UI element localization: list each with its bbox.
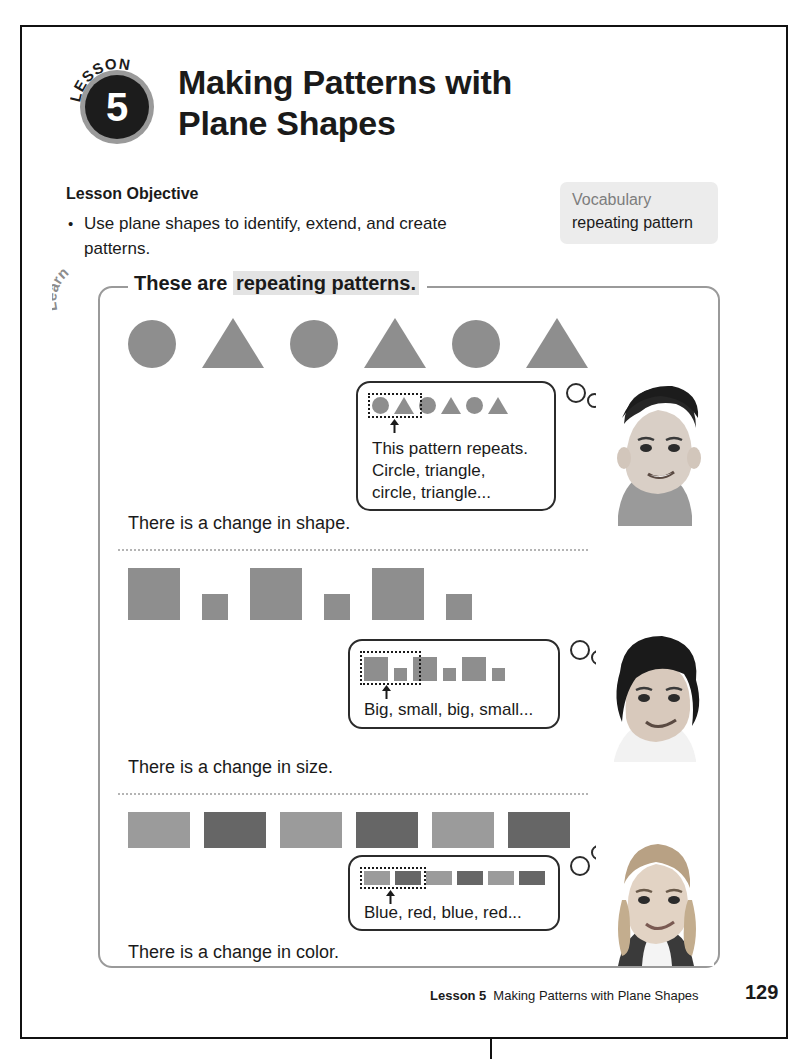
- vocabulary-box: Vocabulary repeating pattern: [560, 182, 718, 244]
- bubble-line: This pattern repeats.: [372, 438, 548, 460]
- mini-rect-blue: [488, 871, 514, 885]
- page-number: 129: [745, 981, 778, 1004]
- pattern-shape-circle: [452, 320, 500, 368]
- bubble-line: Big, small, big, small...: [364, 699, 554, 721]
- mini-square-small: [443, 668, 456, 681]
- bubble-text-shape: This pattern repeats. Circle, triangle, …: [372, 438, 548, 504]
- pattern-square-big: [372, 568, 424, 620]
- thought-dot-large: [566, 383, 586, 403]
- size-pattern-sequence: [128, 566, 472, 620]
- unit-highlight-box: [360, 867, 426, 889]
- pattern-shape-triangle: [526, 318, 588, 368]
- caption-color: There is a change in color.: [128, 942, 339, 963]
- pattern-rect-blue: [432, 812, 494, 848]
- pattern-shape-triangle: [364, 318, 426, 368]
- pattern-square-small: [324, 594, 350, 620]
- pattern-square-small: [446, 594, 472, 620]
- objective-item: • Use plane shapes to identify, extend, …: [68, 212, 488, 261]
- footer-title: Making Patterns with Plane Shapes: [493, 988, 698, 1003]
- learn-tab-label: Learn: [52, 264, 72, 313]
- vocabulary-term: repeating pattern: [572, 214, 706, 232]
- color-pattern-sequence: [128, 812, 570, 848]
- bubble-text-color: Blue, red, blue, red...: [364, 902, 554, 924]
- pattern-shape-circle: [128, 320, 176, 368]
- objective-heading: Lesson Objective: [66, 185, 199, 203]
- pattern-rect-red: [204, 812, 266, 848]
- thought-dot-large: [570, 640, 590, 660]
- bubble-line: Blue, red, blue, red...: [364, 902, 554, 924]
- speech-bubble-shape: This pattern repeats. Circle, triangle, …: [356, 381, 556, 511]
- footer-lesson: Lesson 5: [430, 988, 486, 1003]
- thought-dot-large: [570, 856, 590, 876]
- unit-arrow-icon: [382, 685, 391, 699]
- bubble-line: circle, triangle...: [372, 482, 548, 504]
- pattern-rect-red: [356, 812, 418, 848]
- pattern-rect-blue: [128, 812, 190, 848]
- page-title: Making Patterns with Plane Shapes: [178, 62, 598, 145]
- badge-word: LESSON: [70, 55, 132, 104]
- divider-1: [118, 549, 588, 551]
- svg-text:Learn: Learn: [52, 264, 72, 313]
- pattern-square-big: [250, 568, 302, 620]
- pattern-square-small: [202, 594, 228, 620]
- learn-heading-highlight: repeating patterns.: [233, 271, 419, 295]
- unit-highlight-box: [360, 651, 421, 685]
- footer: Lesson 5Making Patterns with Plane Shape…: [430, 988, 699, 1003]
- title-line-2: Plane Shapes: [178, 103, 598, 144]
- student-photo-3: [596, 826, 714, 966]
- pattern-shape-circle: [290, 320, 338, 368]
- bubble-text-size: Big, small, big, small...: [364, 699, 554, 721]
- unit-highlight-box: [368, 393, 422, 418]
- vocabulary-title: Vocabulary: [572, 191, 706, 209]
- unit-arrow-icon: [390, 419, 399, 433]
- mini-rect-red: [519, 871, 545, 885]
- mini-triangle: [441, 397, 461, 414]
- speech-bubble-color: Blue, red, blue, red...: [348, 855, 560, 931]
- learn-heading-plain: These are: [134, 272, 233, 294]
- mini-triangle: [488, 397, 508, 414]
- binding-mark: [490, 1039, 492, 1059]
- divider-2: [118, 793, 588, 795]
- mini-circle: [466, 397, 483, 414]
- mini-rect-blue: [426, 871, 452, 885]
- learn-heading: These are repeating patterns.: [128, 272, 427, 295]
- bubble-line: Circle, triangle,: [372, 460, 548, 482]
- student-photo-2: [596, 622, 714, 762]
- pattern-shape-triangle: [202, 318, 264, 368]
- pattern-rect-blue: [280, 812, 342, 848]
- mini-square-small: [492, 668, 505, 681]
- pattern-square-big: [128, 568, 180, 620]
- mini-square-big: [462, 657, 486, 681]
- bullet-icon: •: [68, 213, 73, 235]
- title-line-1: Making Patterns with: [178, 62, 598, 103]
- caption-shape: There is a change in shape.: [128, 513, 350, 534]
- lesson-badge: 5 LESSON: [74, 58, 160, 144]
- shape-pattern-sequence: [128, 318, 588, 368]
- student-photo-1: [596, 366, 714, 526]
- badge-arc-text: LESSON: [70, 52, 166, 148]
- pattern-rect-red: [508, 812, 570, 848]
- caption-size: There is a change in size.: [128, 757, 333, 778]
- speech-bubble-size: Big, small, big, small...: [348, 639, 560, 729]
- objective-text: Use plane shapes to identify, extend, an…: [84, 212, 488, 261]
- svg-text:LESSON: LESSON: [70, 55, 132, 104]
- mini-rect-red: [457, 871, 483, 885]
